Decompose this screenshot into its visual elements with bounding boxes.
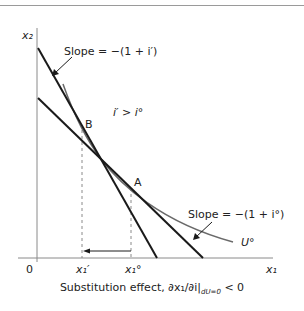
pointer-steep bbox=[55, 57, 72, 73]
slope-steep-label: Slope = −(1 + i′) bbox=[64, 46, 157, 57]
tick-x1-zero: x₁° bbox=[125, 264, 141, 275]
x-axis-label: x₁ bbox=[266, 264, 277, 275]
curve-u0-label: U° bbox=[241, 237, 255, 248]
caption-tail: < 0 bbox=[224, 281, 244, 294]
point-b-label: B bbox=[85, 119, 93, 130]
budget-line-shallow bbox=[38, 98, 203, 258]
caption: Substitution effect, ∂x₁/∂i|dU=0 < 0 bbox=[0, 281, 304, 296]
budget-line-steep bbox=[38, 48, 157, 258]
inequality-label: i′ > i° bbox=[113, 107, 143, 118]
arrowhead-icon bbox=[83, 249, 90, 254]
tick-x1-prime: x₁′ bbox=[76, 264, 89, 275]
caption-subscript: dU=0 bbox=[201, 288, 221, 296]
point-a-label: A bbox=[134, 177, 142, 188]
origin-label: 0 bbox=[26, 264, 33, 275]
slope-shallow-label: Slope = −(1 + i°) bbox=[188, 209, 284, 220]
y-axis-label: x₂ bbox=[22, 30, 33, 41]
caption-text: Substitution effect, ∂x₁/∂i| bbox=[60, 281, 201, 294]
